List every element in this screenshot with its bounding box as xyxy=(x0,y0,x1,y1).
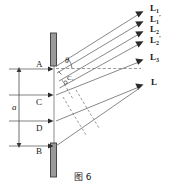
slit-bar-top xyxy=(51,33,57,66)
point-label-B: B xyxy=(36,147,42,156)
angle-arc-theta xyxy=(69,59,73,68)
ray-label-L2: L2 xyxy=(150,25,159,35)
ray-label-L3: L3 xyxy=(150,53,159,63)
point-label-D: D xyxy=(36,124,43,133)
ray-arrow-L2 xyxy=(135,31,143,37)
figure-caption: 图 6 xyxy=(74,170,92,183)
ray-line-L1p xyxy=(57,24,139,73)
ray-arrow-L xyxy=(135,84,143,90)
ray-label-L: L xyxy=(151,78,157,87)
angle-label-theta: θ xyxy=(65,57,69,65)
ray-label-L1: L1 xyxy=(150,4,159,14)
dimension-arrow-top xyxy=(17,67,22,72)
ray-label-L2-prime: L2′ xyxy=(150,35,161,46)
wavefront-dashed-1 xyxy=(63,97,86,135)
wavefront-dashed-2 xyxy=(76,90,99,128)
point-label-A: A xyxy=(36,60,43,69)
point-label-C1: C₁ xyxy=(67,75,74,82)
ray-label-L1p-prime: ′ xyxy=(159,13,161,21)
ray-label-L3-sub: 3 xyxy=(156,57,159,63)
point-marker-A xyxy=(59,72,62,75)
ray-line-L xyxy=(56,87,139,121)
ray-arrow-L1 xyxy=(135,11,143,17)
ray-arrow-L3 xyxy=(135,59,143,65)
ray-arrow-L2p xyxy=(135,41,143,47)
dimension-arrow-bottom xyxy=(17,143,22,148)
incoming-arrow-A xyxy=(48,66,54,71)
incoming-arrow-D xyxy=(48,118,54,123)
ray-label-L2p-prime: ′ xyxy=(159,34,161,42)
incoming-arrow-C xyxy=(48,92,54,97)
ray-line-from-B xyxy=(56,89,139,147)
dimension-label-a: a xyxy=(12,103,17,112)
point-label-C: C xyxy=(36,98,42,107)
slit-bar-bottom xyxy=(51,143,57,177)
ray-arrow-L1p xyxy=(135,21,143,27)
